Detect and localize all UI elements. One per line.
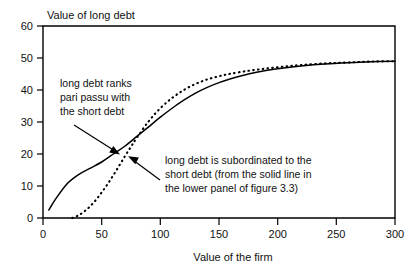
x-tick-label-150: 150	[210, 228, 228, 240]
annotation-subordinated-line-2: short debt (from the solid line in	[165, 168, 312, 180]
x-axis-tick-labels: 0 50 100 150 200 250 300	[40, 228, 404, 240]
y-tick-label-60: 60	[21, 20, 33, 32]
annotation-subordinated: long debt is subordinated to the short d…	[128, 154, 312, 194]
y-tick-label-40: 40	[21, 84, 33, 96]
x-tick-label-50: 50	[96, 228, 108, 240]
chart-canvas: 0 10 20 30 40 50 60 0 50 100 150 200 250	[0, 0, 415, 269]
y-tick-label-10: 10	[21, 180, 33, 192]
x-axis-ticks	[43, 218, 395, 225]
annotation-pari-passu-line-3: the short debt	[60, 105, 124, 117]
annotation-subordinated-line-3: the lower panel of figure 3.3)	[165, 182, 298, 194]
x-tick-label-200: 200	[269, 228, 287, 240]
x-tick-label-0: 0	[40, 228, 46, 240]
y-axis-ticks	[37, 26, 43, 218]
x-axis-title: Value of the firm	[193, 251, 272, 263]
x-tick-label-100: 100	[151, 228, 169, 240]
annotation-pari-passu-line-2: pari passu with	[60, 91, 130, 103]
y-tick-label-20: 20	[21, 148, 33, 160]
figure-container: 0 10 20 30 40 50 60 0 50 100 150 200 250	[0, 0, 415, 269]
annotation-subordinated-arrow-shaft	[133, 160, 160, 180]
y-tick-label-50: 50	[21, 52, 33, 64]
annotation-pari-passu: long debt ranks pari passu with the shor…	[60, 77, 132, 155]
x-tick-label-300: 300	[386, 228, 404, 240]
chart-title: Value of long debt	[47, 9, 135, 21]
y-tick-label-0: 0	[27, 212, 33, 224]
annotation-subordinated-line-1: long debt is subordinated to the	[165, 154, 312, 166]
y-tick-label-30: 30	[21, 116, 33, 128]
annotation-pari-passu-arrow-shaft	[74, 125, 115, 151]
y-axis-tick-labels: 0 10 20 30 40 50 60	[21, 20, 33, 224]
x-tick-label-250: 250	[327, 228, 345, 240]
annotation-pari-passu-line-1: long debt ranks	[60, 77, 132, 89]
